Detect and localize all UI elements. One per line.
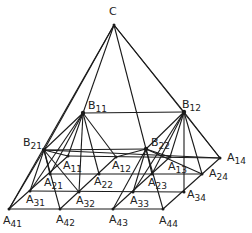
node-c xyxy=(113,24,116,27)
node-a41 xyxy=(8,208,11,211)
label-a44: A44 xyxy=(159,214,178,229)
label-a24: A24 xyxy=(209,167,228,182)
label-a21: A21 xyxy=(44,176,63,191)
edge-b12-a33 xyxy=(133,112,184,192)
label-a14: A14 xyxy=(227,151,246,166)
node-b22 xyxy=(144,147,148,151)
label-b11: B11 xyxy=(88,99,107,114)
node-a44 xyxy=(162,208,165,211)
edge-layer xyxy=(9,25,220,209)
label-a11: A11 xyxy=(63,159,82,174)
label-b12: B12 xyxy=(182,98,201,113)
label-a31: A31 xyxy=(26,193,45,208)
edge-b21-b22 xyxy=(44,149,146,150)
label-a41: A41 xyxy=(3,214,22,229)
edge-b11-a32 xyxy=(79,113,83,192)
node-a24 xyxy=(201,173,204,176)
node-a42 xyxy=(59,208,62,211)
label-a42: A42 xyxy=(56,213,75,228)
label-a12: A12 xyxy=(112,159,131,174)
label-a22: A22 xyxy=(94,175,113,190)
diagram-canvas: CB11B12B21B22A11A12A13A14A21A22A23A24A31… xyxy=(0,0,252,233)
node-a13 xyxy=(169,156,172,159)
edge-b11-a22 xyxy=(83,113,99,174)
edge-c-b22 xyxy=(114,25,146,149)
node-a14 xyxy=(219,157,222,160)
label-a33: A33 xyxy=(130,194,149,209)
label-c: C xyxy=(109,5,117,18)
label-a23: A23 xyxy=(148,176,167,191)
node-a11 xyxy=(67,155,70,158)
node-b11 xyxy=(81,111,85,115)
label-b21: B21 xyxy=(23,136,42,151)
label-a43: A43 xyxy=(109,213,128,228)
node-layer xyxy=(8,24,222,211)
node-b21 xyxy=(42,148,46,152)
edge-b11-a12 xyxy=(83,113,116,157)
label-a32: A32 xyxy=(76,194,95,209)
edge-a31-a34 xyxy=(30,191,184,192)
edge-b11-b21 xyxy=(44,113,83,150)
edge-b12-a14 xyxy=(184,112,220,158)
node-a43 xyxy=(112,208,115,211)
node-a34 xyxy=(183,191,186,194)
label-a34: A34 xyxy=(187,188,206,203)
pyramid-diagram: CB11B12B21B22A11A12A13A14A21A22A23A24A31… xyxy=(0,0,252,233)
